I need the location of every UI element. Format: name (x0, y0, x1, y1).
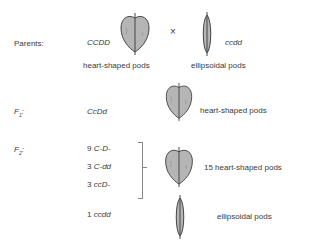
parent-phenotype-left: heart-shaped pods (83, 62, 150, 70)
heart-pod-icon (164, 82, 194, 122)
heart-pod-icon (119, 12, 151, 56)
f2-row: 3 C-dd (87, 163, 111, 171)
f1-genotype: CcDd (87, 108, 107, 116)
f2-row: 3 ccD- (87, 181, 110, 189)
bracket-tick (142, 167, 147, 168)
cross-symbol: × (170, 27, 176, 37)
grouping-bracket (138, 142, 143, 199)
f2-ellipsoid-phenotype: ellipsoidal pods (217, 213, 272, 221)
f2-row: 1 ccdd (87, 211, 111, 219)
f1-label: F1: (14, 108, 24, 118)
ellipsoid-pod-icon (174, 195, 186, 239)
parent-genotype-right: ccdd (225, 39, 242, 47)
heart-pod-icon (164, 146, 194, 188)
ellipsoid-pod-icon (201, 12, 213, 56)
f1-phenotype: heart-shaped pods (200, 107, 267, 115)
f2-row: 9 C-D- (87, 145, 111, 153)
f2-label: F2: (14, 146, 24, 156)
parents-label: Parents: (14, 40, 44, 48)
parent-phenotype-right: ellipsoidal pods (191, 62, 246, 70)
parent-genotype-left: CCDD (87, 39, 110, 47)
f2-heart-phenotype: 15 heart-shaped pods (204, 164, 282, 172)
